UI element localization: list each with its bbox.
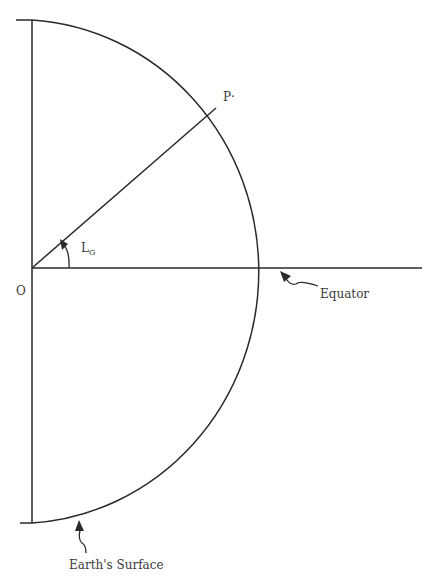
point-p-label: P· <box>223 90 235 104</box>
equator-arrowhead-icon <box>280 271 291 282</box>
origin-label: O <box>16 284 26 298</box>
equator-label: Equator <box>320 287 369 301</box>
earth-surface-label: Earth's Surface <box>69 558 164 572</box>
geodetic-latitude-diagram <box>0 0 435 578</box>
point-p-text: P <box>223 90 231 104</box>
angle-subscript: G <box>89 248 95 257</box>
surface-arrow <box>79 530 86 553</box>
surface-arrowhead-icon <box>75 520 84 531</box>
angle-label: LG <box>81 241 95 257</box>
radius-line-op <box>32 108 216 268</box>
angle-main-text: L <box>81 241 89 255</box>
point-p-dot: · <box>231 90 235 104</box>
